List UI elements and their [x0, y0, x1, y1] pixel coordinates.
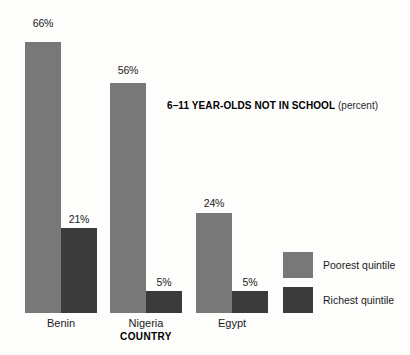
- legend-item-poorest: Poorest quintile: [283, 252, 395, 278]
- legend-item-richest: Richest quintile: [283, 287, 394, 313]
- bar-value-benin-poorest: 66%: [25, 17, 61, 29]
- bar-value-egypt-richest: 5%: [232, 276, 268, 288]
- bar-egypt-poorest: [196, 213, 232, 313]
- bar-benin-poorest: [25, 42, 61, 313]
- legend-swatch-poorest: [283, 252, 313, 278]
- bar-value-nigeria-poorest: 56%: [110, 64, 146, 76]
- bar-egypt-richest: [232, 291, 268, 313]
- legend-label-poorest: Poorest quintile: [323, 259, 395, 271]
- bar-value-nigeria-richest: 5%: [146, 276, 182, 288]
- legend-label-richest: Richest quintile: [323, 294, 394, 306]
- chart-title-main: 6–11 YEAR-OLDS NOT IN SCHOOL: [167, 100, 335, 111]
- x-axis-title: COUNTRY: [0, 331, 292, 342]
- bar-benin-richest: [61, 228, 97, 313]
- chart-title-units: (percent): [338, 100, 378, 111]
- bar-nigeria-poorest: [110, 83, 146, 313]
- bar-value-benin-richest: 21%: [61, 213, 97, 225]
- bar-value-egypt-poorest: 24%: [196, 197, 232, 209]
- category-label-nigeria: Nigeria: [110, 317, 182, 329]
- chart-container: 66% 21% 56% 5% 24% 5% Benin Nigeria Egyp…: [0, 0, 410, 355]
- category-label-benin: Benin: [25, 317, 97, 329]
- bar-nigeria-richest: [146, 291, 182, 313]
- chart-title: 6–11 YEAR-OLDS NOT IN SCHOOL (percent): [167, 100, 378, 111]
- category-label-egypt: Egypt: [196, 317, 268, 329]
- legend-swatch-richest: [283, 287, 313, 313]
